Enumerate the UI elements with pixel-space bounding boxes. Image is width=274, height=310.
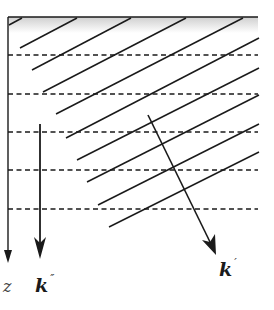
- k-prime-symbol: k: [219, 258, 232, 280]
- wavefronts: [9, 18, 259, 227]
- k-prime-arrow-shaft: [148, 115, 211, 244]
- wavefront: [87, 95, 259, 182]
- surface-shade: [8, 17, 258, 33]
- k-prime-label: k′: [219, 258, 237, 280]
- k-double-prime-symbol: k: [35, 274, 48, 296]
- z-axis-arrowhead: [4, 250, 12, 263]
- k-double-prime-label: k″: [35, 274, 54, 296]
- wavefront: [66, 38, 259, 138]
- k-prime-mark: ′: [234, 256, 237, 269]
- k-double-prime-mark: ″: [50, 272, 54, 285]
- z-axis-label: z: [3, 277, 11, 296]
- k-prime-arrowhead: [202, 234, 216, 255]
- wavefront: [77, 68, 259, 160]
